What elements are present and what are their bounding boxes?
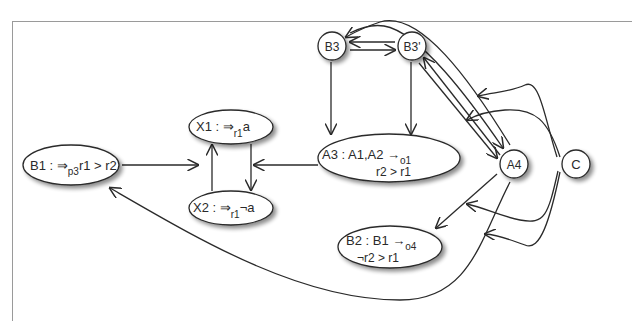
node-c-label: C bbox=[571, 157, 580, 172]
edge-a4-to-b1 bbox=[110, 182, 510, 300]
node-b2-line2: ¬r2 > r1 bbox=[357, 251, 399, 265]
node-a3-line1: A3 : A1,A2 → bbox=[322, 147, 400, 162]
node-b1-sub: p3 bbox=[68, 166, 80, 177]
node-c: C bbox=[562, 150, 590, 178]
node-a3-line2: r2 > r1 bbox=[376, 165, 411, 179]
node-a4: A4 bbox=[500, 150, 528, 178]
edge-c-to-a4-b1-edge bbox=[485, 172, 560, 246]
node-x1-tail: a bbox=[243, 119, 251, 134]
node-x1: X1 : ⇒r1a bbox=[189, 110, 273, 144]
node-x1-main: X1 : ⇒ bbox=[196, 119, 234, 134]
node-a4-label: A4 bbox=[507, 158, 522, 172]
edge-a4-to-b2 bbox=[436, 174, 497, 228]
node-b3-label: B3 bbox=[325, 40, 340, 54]
node-b3: B3 bbox=[318, 32, 346, 60]
node-b1: B1 : ⇒p3r1 > r2 bbox=[23, 145, 119, 185]
node-x2-main: X2 : ⇒ bbox=[193, 200, 231, 215]
node-x2-tail: ¬a bbox=[240, 200, 256, 215]
node-b1-main: B1 : ⇒ bbox=[30, 158, 68, 173]
node-x2: X2 : ⇒r1¬a bbox=[189, 191, 273, 225]
edge-c-to-b3-a4-edge bbox=[478, 84, 557, 157]
node-b2: B2 : B1 →o4 ¬r2 > r1 bbox=[338, 226, 442, 268]
node-b3-prime-label: B3' bbox=[404, 40, 421, 54]
node-b1-tail: r1 > r2 bbox=[79, 158, 117, 173]
node-b2-line1: B2 : B1 → bbox=[346, 233, 405, 248]
node-a3: A3 : A1,A2 →o1 r2 > r1 bbox=[318, 134, 460, 182]
node-b3-prime: B3' bbox=[398, 32, 426, 60]
edge-a4-to-b3 bbox=[346, 21, 510, 145]
node-b2-sub: o4 bbox=[405, 241, 417, 252]
